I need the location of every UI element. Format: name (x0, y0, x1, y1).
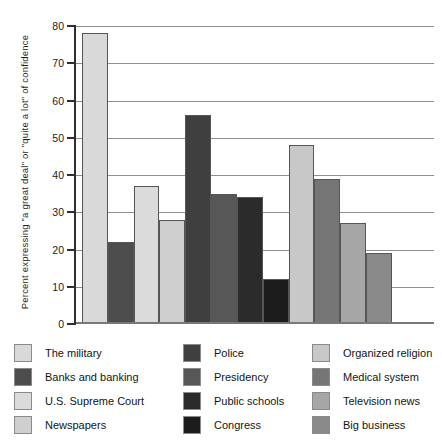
legend-item-presidency: Presidency (183, 365, 284, 389)
legend-label: Medical system (343, 371, 419, 383)
legend-swatch-the-military (14, 344, 32, 362)
legend-label: U.S. Supreme Court (45, 395, 144, 407)
bar-the-military (82, 33, 108, 324)
bar-public-schools (237, 197, 263, 324)
legend-label: Congress (214, 419, 261, 431)
bar-organized-religion (289, 145, 315, 324)
y-tick-label-10: 10 (0, 281, 64, 293)
y-tick-label-70: 70 (0, 57, 64, 69)
gridline-40 (76, 175, 434, 176)
plot-area (74, 26, 434, 324)
legend-column-3: Organized religion Medical system Televi… (312, 341, 432, 437)
y-tick-label-80: 80 (0, 20, 64, 32)
legend-swatch-television-news (312, 392, 330, 410)
legend-item-television-news: Television news (312, 389, 432, 413)
legend-item-banks-and-banking: Banks and banking (14, 365, 144, 389)
legend-label: The military (45, 347, 102, 359)
legend-label: Public schools (214, 395, 284, 407)
y-tick-label-50: 50 (0, 132, 64, 144)
gridline-80 (76, 26, 434, 27)
gridline-60 (76, 101, 434, 102)
legend-swatch-public-schools (183, 392, 201, 410)
legend-swatch-newspapers (14, 416, 32, 434)
y-tick-label-40: 40 (0, 169, 64, 181)
y-tick-label-60: 60 (0, 95, 64, 107)
legend-column-1: The military Banks and banking U.S. Supr… (14, 341, 144, 437)
legend-label: Presidency (214, 371, 268, 383)
legend-item-organized-religion: Organized religion (312, 341, 432, 365)
bar-big-business (366, 253, 392, 324)
gridline-50 (76, 138, 434, 139)
legend-label: Big business (343, 419, 405, 431)
bar-police (185, 115, 211, 324)
legend-swatch-presidency (183, 368, 201, 386)
y-tick-label-0: 0 (0, 318, 64, 330)
gridline-70 (76, 63, 434, 64)
legend-item-newspapers: Newspapers (14, 413, 144, 437)
legend-swatch-congress (183, 416, 201, 434)
legend-item-the-military: The military (14, 341, 144, 365)
y-tick-label-30: 30 (0, 206, 64, 218)
legend-swatch-us-supreme-court (14, 392, 32, 410)
legend-label: Newspapers (45, 419, 106, 431)
legend: The military Banks and banking U.S. Supr… (0, 341, 442, 441)
legend-swatch-big-business (312, 416, 330, 434)
legend-item-medical-system: Medical system (312, 365, 432, 389)
bar-medical-system (314, 179, 340, 324)
bar-presidency (211, 194, 237, 324)
legend-label: Organized religion (343, 347, 432, 359)
legend-item-us-supreme-court: U.S. Supreme Court (14, 389, 144, 413)
legend-item-big-business: Big business (312, 413, 432, 437)
legend-swatch-police (183, 344, 201, 362)
legend-swatch-banks-and-banking (14, 368, 32, 386)
bar-u-s-supreme-court (134, 186, 160, 324)
legend-label: Banks and banking (45, 371, 139, 383)
legend-label: Television news (343, 395, 420, 407)
legend-item-public-schools: Public schools (183, 389, 284, 413)
legend-item-congress: Congress (183, 413, 284, 437)
legend-swatch-medical-system (312, 368, 330, 386)
legend-column-2: Police Presidency Public schools Congres… (183, 341, 284, 437)
bar-television-news (340, 223, 366, 324)
bar-newspapers (159, 220, 185, 324)
legend-label: Police (214, 347, 244, 359)
legend-item-police: Police (183, 341, 284, 365)
bar-congress (263, 279, 289, 324)
confidence-bar-chart-figure: Percent expressing "a great deal" or "qu… (0, 0, 442, 445)
x-axis-baseline (76, 322, 434, 324)
y-tick-label-20: 20 (0, 244, 64, 256)
legend-swatch-organized-religion (312, 344, 330, 362)
bar-banks-and-banking (108, 242, 134, 324)
